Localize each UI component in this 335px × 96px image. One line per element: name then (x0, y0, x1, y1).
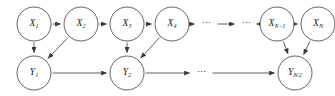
nodes-layer: X1X2X3X4XN−1XNY1Y2YN/2 (17, 7, 335, 90)
graphical-model-diagram: X1X2X3X4XN−1XNY1Y2YN/2 ⋯⋯⋯ (0, 0, 335, 96)
node-xn1: XN−1 (260, 7, 294, 41)
node-yn2: YN/2 (278, 56, 312, 90)
edge-xn-yn2 (304, 41, 310, 55)
node-x1: X1 (17, 7, 51, 41)
node-x3: X3 (110, 7, 144, 41)
ellipsis-top-dots-1: ⋯ (202, 18, 212, 28)
node-y2: Y2 (110, 56, 144, 90)
node-x2: X2 (64, 7, 98, 41)
ellipsis-top-dots-2: ⋯ (242, 18, 252, 28)
ellipsis-layer: ⋯⋯⋯ (197, 18, 252, 77)
edge-x4-y2 (141, 38, 160, 58)
node-y1: Y1 (17, 56, 51, 90)
node-xn: XN (301, 7, 335, 41)
ellipsis-bottom-dots-1: ⋯ (197, 67, 207, 77)
diagram-canvas: X1X2X3X4XN−1XNY1Y2YN/2 ⋯⋯⋯ (0, 0, 335, 96)
edge-x2-y1 (48, 37, 68, 58)
edge-xn1-yn2 (283, 41, 288, 53)
node-x4: X4 (155, 7, 189, 41)
